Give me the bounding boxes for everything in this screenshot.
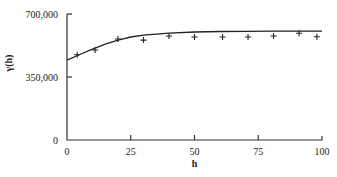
y-axis-ticks: 0350,000700,000 (26, 9, 73, 146)
y-tick-label: 0 (53, 135, 58, 146)
plus-marker (141, 37, 147, 43)
x-tick-label: 50 (190, 146, 200, 157)
x-tick-label: 75 (253, 146, 263, 157)
x-tick-label: 0 (65, 146, 70, 157)
y-tick-label: 350,000 (26, 72, 59, 83)
x-tick-label: 25 (126, 146, 136, 157)
empirical-points (74, 30, 320, 57)
x-axis-title: h (192, 158, 198, 169)
plus-marker (271, 33, 277, 39)
plus-marker (245, 34, 251, 40)
semivariogram-chart: 0350,000700,000 0255075100 h γ(h) (0, 0, 337, 177)
plus-marker (314, 34, 320, 40)
y-axis-title: γ(h) (3, 55, 15, 73)
axes-lines (67, 14, 322, 140)
x-axis-ticks: 0255075100 (65, 135, 330, 157)
plus-marker (220, 34, 226, 40)
plus-marker (192, 34, 198, 40)
y-tick-label: 700,000 (26, 9, 59, 20)
x-tick-label: 100 (315, 146, 330, 157)
